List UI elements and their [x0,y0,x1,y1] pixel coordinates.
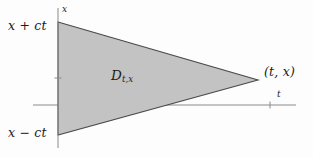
label-x-minus-ct: x − ct [8,127,47,140]
script-d-symbol: D [111,67,122,83]
domain-region-label: Dt,x [111,69,133,84]
apex-point-label: (t, x) [264,66,295,79]
domain-region-triangle [58,22,258,135]
domain-of-dependence-figure: x + ct x − ct x t (t, x) Dt,x [0,0,313,157]
label-x-plus-ct: x + ct [8,20,47,33]
domain-subscript: t,x [122,74,133,84]
x-axis-label: x [62,5,67,14]
t-axis-label: t [277,90,281,99]
